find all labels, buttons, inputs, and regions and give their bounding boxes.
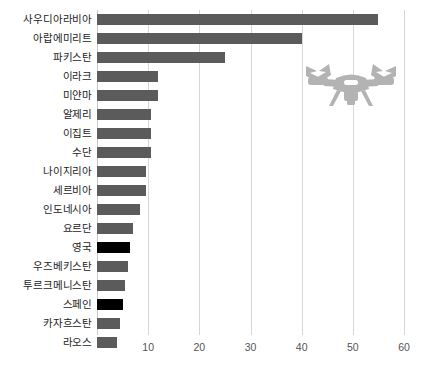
bar-row: 인도네시아	[0, 200, 425, 219]
bar-row: 투르크메니스탄	[0, 276, 425, 295]
category-label: 영국	[72, 238, 92, 257]
bar-row: 카자흐스탄	[0, 314, 425, 333]
category-label: 요르단	[63, 219, 92, 238]
category-label: 아랍에미리트	[33, 29, 92, 48]
bar	[97, 242, 130, 253]
bar	[97, 299, 123, 310]
category-label: 사우디아라비아	[23, 10, 92, 29]
x-axis-tick-labels: 102030405060	[0, 341, 425, 361]
bar-row: 스페인	[0, 295, 425, 314]
x-tick-label: 10	[128, 341, 168, 353]
x-tick-label: 40	[282, 341, 322, 353]
bar	[97, 71, 158, 82]
category-label: 수단	[72, 143, 92, 162]
bar-row: 세르비아	[0, 181, 425, 200]
category-label: 미얀마	[63, 86, 92, 105]
bar	[97, 33, 302, 44]
bar	[97, 109, 151, 120]
category-label: 이집트	[63, 124, 92, 143]
bar-row: 사우디아라비아	[0, 10, 425, 29]
x-tick-label: 50	[333, 341, 373, 353]
category-label: 파키스탄	[53, 48, 92, 67]
bar-row: 알제리	[0, 105, 425, 124]
category-label: 세르비아	[53, 181, 92, 200]
bar	[97, 223, 133, 234]
bar-row: 아랍에미리트	[0, 29, 425, 48]
x-tick-label: 60	[384, 341, 424, 353]
bar	[97, 14, 378, 25]
category-label: 스페인	[63, 295, 92, 314]
bar-row: 이집트	[0, 124, 425, 143]
bar-row: 요르단	[0, 219, 425, 238]
bar	[97, 147, 151, 158]
x-tick-label: 20	[179, 341, 219, 353]
category-label: 나이지리아	[43, 162, 92, 181]
bar	[97, 261, 128, 272]
category-label: 알제리	[63, 105, 92, 124]
category-label: 우즈베키스탄	[33, 257, 92, 276]
bar-row: 수단	[0, 143, 425, 162]
bar	[97, 280, 125, 291]
category-label: 카자흐스탄	[43, 314, 92, 333]
bar-row: 나이지리아	[0, 162, 425, 181]
bar-row: 파키스탄	[0, 48, 425, 67]
category-label: 이라크	[63, 67, 92, 86]
bar-chart: 사우디아라비아아랍에미리트파키스탄이라크미얀마알제리이집트수단나이지리아세르비아…	[0, 0, 425, 384]
bar	[97, 185, 146, 196]
bar	[97, 166, 146, 177]
bar-row: 미얀마	[0, 86, 425, 105]
category-label: 인도네시아	[43, 200, 92, 219]
bar	[97, 90, 158, 101]
bar-row: 이라크	[0, 67, 425, 86]
bar-row: 영국	[0, 238, 425, 257]
bar	[97, 318, 120, 329]
bar-row: 우즈베키스탄	[0, 257, 425, 276]
bar-rows: 사우디아라비아아랍에미리트파키스탄이라크미얀마알제리이집트수단나이지리아세르비아…	[0, 0, 425, 325]
category-label: 투르크메니스탄	[23, 276, 92, 295]
bar	[97, 128, 151, 139]
x-tick-label: 30	[231, 341, 271, 353]
bar	[97, 52, 225, 63]
bar	[97, 204, 140, 215]
